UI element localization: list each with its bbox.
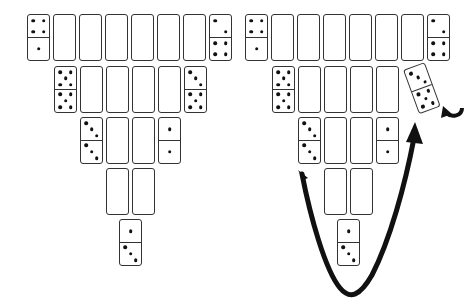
u-turn-arrow-icon (302, 138, 414, 295)
arrows-layer (0, 0, 465, 305)
arrowhead-icon (406, 122, 423, 144)
